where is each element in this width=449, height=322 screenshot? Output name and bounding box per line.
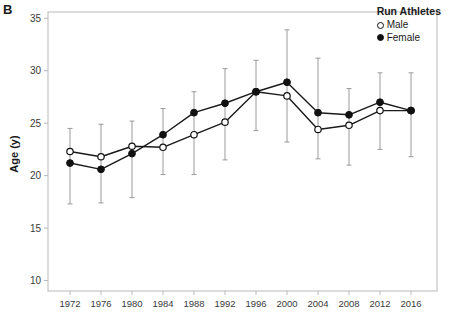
series-line-male — [70, 92, 411, 157]
y-tick-label: 10 — [30, 275, 42, 286]
x-tick-label: 1984 — [152, 298, 173, 309]
legend-item-female: Female — [377, 32, 441, 45]
data-point-male-1976 — [98, 154, 104, 160]
x-tick-label: 1988 — [183, 298, 204, 309]
data-point-female-1996 — [253, 88, 260, 95]
data-point-male-1980 — [129, 143, 135, 149]
plot-area: 101520253035 197219761980198419881992199… — [0, 0, 449, 322]
x-tick-label: 2012 — [369, 298, 390, 309]
legend-item-male: Male — [377, 19, 441, 32]
x-tick-label: 1972 — [59, 298, 80, 309]
y-tick-label: 35 — [30, 13, 42, 24]
data-point-female-2012 — [377, 99, 384, 106]
data-point-female-1980 — [129, 150, 136, 157]
legend-label-male: Male — [387, 19, 409, 32]
chart-figure: B Age (y) 101520253035 19721976198019841… — [0, 0, 449, 322]
x-tick-label: 1976 — [90, 298, 111, 309]
data-point-male-2008 — [346, 122, 352, 128]
x-tick-label: 2000 — [276, 298, 297, 309]
legend-label-female: Female — [387, 32, 420, 45]
x-tick-label: 1992 — [214, 298, 235, 309]
data-point-female-2016 — [408, 107, 415, 114]
x-tick-label: 1980 — [121, 298, 142, 309]
open-circle-icon — [377, 22, 384, 29]
data-point-female-1984 — [160, 131, 167, 138]
data-point-female-1992 — [222, 100, 229, 107]
data-point-male-1988 — [191, 132, 197, 138]
data-point-male-1972 — [67, 148, 73, 154]
y-tick-label: 25 — [30, 118, 42, 129]
x-tick-label: 2016 — [400, 298, 421, 309]
data-point-male-2004 — [315, 126, 321, 132]
series-line-female — [70, 82, 411, 169]
x-tick-label: 1996 — [245, 298, 266, 309]
y-tick-label: 30 — [30, 65, 42, 76]
data-point-female-2008 — [346, 111, 353, 118]
filled-circle-icon — [377, 34, 384, 41]
x-tick-label: 2008 — [338, 298, 359, 309]
data-point-female-2000 — [284, 79, 291, 86]
error-bars — [68, 30, 414, 204]
data-point-male-2000 — [284, 93, 290, 99]
y-axis-ticks: 101520253035 — [30, 13, 48, 286]
series-markers — [67, 79, 415, 173]
data-point-female-1988 — [191, 109, 198, 116]
data-point-male-1984 — [160, 144, 166, 150]
y-tick-label: 15 — [30, 223, 42, 234]
data-point-male-1992 — [222, 119, 228, 125]
legend: Run Athletes Male Female — [377, 5, 441, 44]
legend-title: Run Athletes — [377, 5, 441, 18]
data-point-male-2012 — [377, 107, 383, 113]
x-tick-label: 2004 — [307, 298, 328, 309]
data-point-female-2004 — [315, 109, 322, 116]
data-point-female-1976 — [98, 166, 105, 173]
y-tick-label: 20 — [30, 170, 42, 181]
x-axis-ticks: 1972197619801984198819921996200020042008… — [59, 291, 421, 309]
data-point-female-1972 — [67, 160, 74, 167]
plot-frame — [48, 12, 437, 291]
series-lines — [70, 82, 411, 169]
